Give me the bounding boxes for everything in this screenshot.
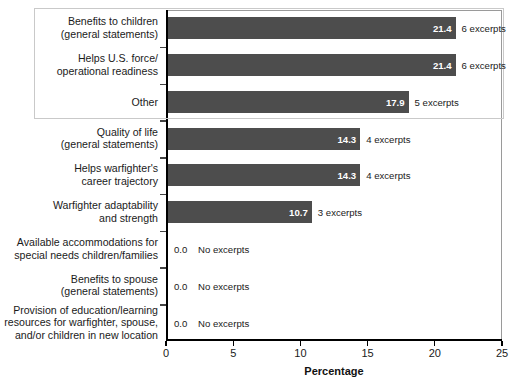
y-axis-tick (160, 120, 166, 122)
bar-value-label: 14.3 (338, 170, 357, 181)
y-axis-tick (160, 267, 166, 269)
bar-row: Provision of education/learningresources… (0, 304, 514, 341)
x-axis-tick-label: 15 (361, 347, 373, 359)
x-axis-tick (434, 341, 435, 346)
category-label-line: operational readiness (0, 65, 158, 78)
category-label-line: Helps warfighter's (0, 163, 158, 176)
category-label-line: Warfighter adaptability (0, 200, 158, 213)
category-label-line: Benefits to children (0, 16, 158, 29)
category-label-line: Other (0, 96, 158, 109)
bar-value-label: 21.4 (433, 23, 452, 34)
category-label-line: Helps U.S. force/ (0, 53, 158, 66)
bar-row: Helps warfighter'scareer trajectory14.34… (0, 157, 514, 194)
category-label-line: (general statements) (0, 28, 158, 41)
bar-row: Warfighter adaptabilityand strength10.73… (0, 194, 514, 231)
y-axis-tick (160, 231, 166, 233)
category-label: Provision of education/learningresources… (0, 304, 158, 342)
category-label-line: (general statements) (0, 286, 158, 299)
category-label: Helps U.S. force/operational readiness (0, 53, 158, 78)
x-axis-tick (300, 341, 301, 346)
category-label: Benefits to spouse(general statements) (0, 273, 158, 298)
category-label-line: resources for warfighter, spouse, (0, 316, 158, 329)
bar-row: Quality of life(general statements)14.34… (0, 120, 514, 157)
x-axis-tick-label: 10 (294, 347, 306, 359)
bar-value-label: 21.4 (433, 60, 452, 71)
category-label: Benefits to children(general statements) (0, 16, 158, 41)
y-axis-tick (160, 47, 166, 49)
bar-value-label: 14.3 (338, 133, 357, 144)
bar-value-label: 0.0 (174, 317, 187, 328)
bar-value-label: 0.0 (174, 244, 187, 255)
category-label: Helps warfighter'scareer trajectory (0, 163, 158, 188)
excerpt-count-label: 3 excerpts (318, 207, 362, 218)
excerpt-count-label: 5 excerpts (415, 96, 459, 107)
x-axis-tick (501, 341, 502, 346)
category-label-line: Provision of education/learning (0, 304, 158, 317)
bar: 14.3 (168, 128, 360, 150)
category-label-line: Quality of life (0, 126, 158, 139)
category-label-line: (general statements) (0, 139, 158, 152)
x-axis-tick (367, 341, 368, 346)
category-label-line: special needs children/families (0, 249, 158, 262)
bar-row: Benefits to spouse(general statements)0.… (0, 267, 514, 304)
bar-value-label: 17.9 (386, 96, 405, 107)
excerpt-count-label: No excerpts (198, 280, 249, 291)
category-label: Warfighter adaptabilityand strength (0, 200, 158, 225)
excerpt-count-label: 6 excerpts (462, 60, 506, 71)
bar-chart: Benefits to children(general statements)… (0, 0, 514, 387)
bar-value-label: 10.7 (289, 207, 308, 218)
x-axis-tick (233, 341, 234, 346)
category-label-line: and/or children in new location (0, 329, 158, 342)
bar: 17.9 (168, 91, 409, 113)
category-label-line: and strength (0, 212, 158, 225)
category-label-line: career trajectory (0, 175, 158, 188)
bar-row: Benefits to children(general statements)… (0, 10, 514, 47)
category-label: Quality of life(general statements) (0, 126, 158, 151)
excerpt-count-label: 4 excerpts (366, 170, 410, 181)
bar: 14.3 (168, 164, 360, 186)
excerpt-count-label: 4 excerpts (366, 133, 410, 144)
bar: 21.4 (168, 54, 456, 76)
bar: 10.7 (168, 201, 312, 223)
x-axis-tick-label: 0 (163, 347, 169, 359)
y-axis-tick (160, 84, 166, 86)
excerpt-count-label: 6 excerpts (462, 23, 506, 34)
excerpt-count-label: No excerpts (198, 244, 249, 255)
category-label: Other (0, 96, 158, 109)
excerpt-count-label: No excerpts (198, 317, 249, 328)
category-label-line: Benefits to spouse (0, 273, 158, 286)
bar-value-label: 0.0 (174, 280, 187, 291)
category-label: Available accommodations forspecial need… (0, 236, 158, 261)
bar-row: Available accommodations forspecial need… (0, 231, 514, 268)
category-label-line: Available accommodations for (0, 236, 158, 249)
x-axis-tick-label: 25 (496, 347, 508, 359)
y-axis-tick (160, 194, 166, 196)
x-axis-tick (165, 341, 166, 346)
x-axis-tick-label: 20 (429, 347, 441, 359)
x-axis-title: Percentage (166, 365, 502, 377)
bar-row: Other17.95 excerpts (0, 84, 514, 121)
bar: 21.4 (168, 17, 456, 39)
y-axis-tick (160, 157, 166, 159)
bar-row: Helps U.S. force/operational readiness21… (0, 47, 514, 84)
y-axis-tick (160, 304, 166, 306)
x-axis-tick-label: 5 (230, 347, 236, 359)
